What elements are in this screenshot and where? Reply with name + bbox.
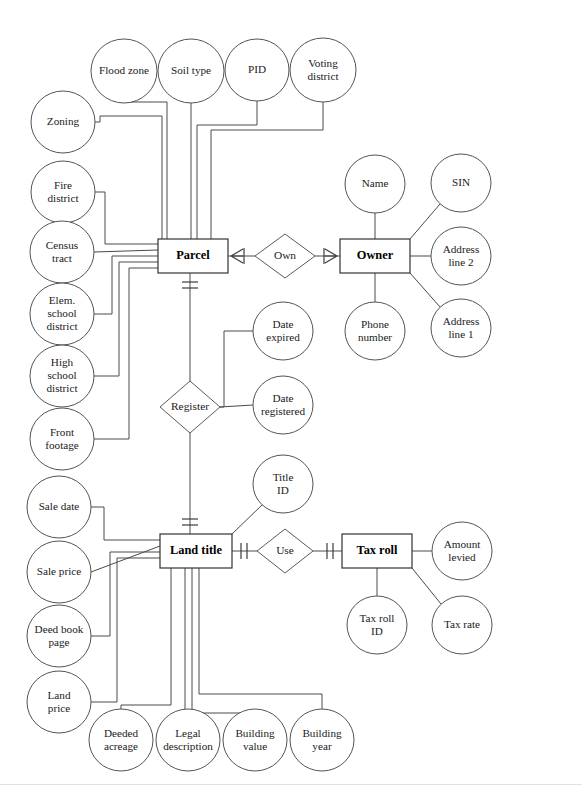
edge-sin: [410, 204, 440, 239]
edge-building_value: [192, 568, 255, 713]
page-bottom-rule: [0, 784, 582, 785]
edge-fire_district: [95, 192, 158, 244]
attribute-node-zoning[interactable]: Zoning: [31, 91, 95, 153]
attribute-label-sale_price: Sale price: [37, 565, 81, 577]
attribute-node-address_line_2[interactable]: Addressline 2: [431, 227, 491, 285]
edge-building_year: [199, 568, 322, 709]
attribute-node-voting_district[interactable]: Votingdistrict: [290, 38, 356, 102]
edge-title_id: [232, 505, 262, 534]
attribute-node-building_value[interactable]: Buildingvalue: [223, 709, 287, 771]
edge-deeded_acreage: [121, 568, 171, 709]
attribute-node-name[interactable]: Name: [345, 155, 405, 213]
relationship-label-use: Use: [276, 544, 294, 556]
attribute-node-building_year[interactable]: Buildingyear: [290, 709, 354, 771]
attribute-node-address_line_1[interactable]: Addressline 1: [431, 299, 491, 357]
edge-address_line_1: [410, 273, 440, 307]
attribute-node-date_registered[interactable]: Dateregistered: [253, 376, 313, 434]
attribute-node-amount_levied[interactable]: Amountlevied: [432, 522, 492, 580]
attribute-label-tax_rate: Tax rate: [444, 618, 480, 630]
relationship-label-register: Register: [171, 400, 209, 412]
attribute-node-front_footage[interactable]: Frontfootage: [30, 408, 94, 470]
attribute-label-soil_type: Soil type: [171, 64, 211, 76]
relationship-node-use[interactable]: Use: [257, 529, 313, 573]
er-diagram-canvas: Flood zoneSoil typePIDVotingdistrictZoni…: [0, 0, 582, 803]
attribute-label-voting_district: Votingdistrict: [307, 56, 339, 81]
entity-label-land_title: Land title: [170, 543, 222, 557]
attribute-node-legal_description[interactable]: Legaldescription: [156, 709, 220, 771]
attribute-node-deed_book_page[interactable]: Deed bookpage: [27, 605, 91, 667]
edge-flood_zone: [124, 102, 167, 239]
edge-census_tract: [94, 250, 158, 252]
attribute-label-elem_school: Elem.schooldistrict: [46, 294, 78, 332]
attribute-node-census_tract[interactable]: Censustract: [30, 221, 94, 283]
attribute-node-phone_number[interactable]: Phonenumber: [345, 302, 405, 360]
attribute-label-phone_number: Phonenumber: [358, 317, 392, 342]
attribute-node-deeded_acreage[interactable]: Deededacreage: [89, 709, 153, 771]
attribute-node-date_expired[interactable]: Dateexpired: [253, 302, 313, 360]
attribute-label-land_price: Landprice: [48, 688, 71, 713]
attribute-node-tax_roll_id[interactable]: Tax rollID: [347, 596, 407, 654]
entity-node-parcel[interactable]: Parcel: [158, 239, 228, 273]
relationship-label-own: Own: [274, 249, 296, 261]
edge-sale_price: [91, 546, 160, 572]
edge-tax_rate: [412, 568, 441, 604]
attribute-node-high_school[interactable]: Highschooldistrict: [30, 345, 94, 407]
attribute-node-pid[interactable]: PID: [225, 39, 289, 101]
attribute-node-title_id[interactable]: TitleID: [253, 455, 313, 513]
attribute-label-zoning: Zoning: [47, 115, 80, 127]
attribute-node-sale_date[interactable]: Sale date: [27, 476, 91, 538]
attribute-node-fire_district[interactable]: Firedistrict: [31, 161, 95, 223]
entity-node-tax_roll[interactable]: Tax roll: [342, 534, 412, 568]
attribute-label-flood_zone: Flood zone: [99, 64, 149, 76]
edge-deed_book_page: [91, 552, 160, 636]
attribute-node-elem_school[interactable]: Elem.schooldistrict: [30, 283, 94, 345]
er-diagram-svg: Flood zoneSoil typePIDVotingdistrictZoni…: [0, 0, 582, 803]
attribute-label-sin: SIN: [452, 176, 470, 188]
attribute-label-pid: PID: [248, 63, 266, 75]
attribute-label-sale_date: Sale date: [39, 500, 80, 512]
edge-land_price: [91, 558, 160, 702]
edge-date_registered: [220, 405, 253, 407]
relationship-node-register[interactable]: Register: [160, 381, 220, 433]
attribute-label-amount_levied: Amountlevied: [444, 537, 482, 562]
attribute-node-flood_zone[interactable]: Flood zone: [91, 39, 157, 103]
attribute-node-tax_rate[interactable]: Tax rate: [432, 596, 492, 654]
edge-sale_date: [91, 507, 160, 540]
attribute-label-front_footage: Frontfootage: [45, 425, 79, 450]
cardinality-parcel-own-crowsfoot: [231, 249, 243, 263]
attribute-node-soil_type[interactable]: Soil type: [158, 39, 224, 103]
edge-elem_school: [94, 256, 158, 314]
attribute-node-land_price[interactable]: Landprice: [27, 671, 91, 733]
edge-front_footage: [94, 268, 158, 439]
entity-node-owner[interactable]: Owner: [340, 239, 410, 273]
edge-pid: [197, 101, 257, 239]
entity-label-parcel: Parcel: [176, 248, 210, 262]
attribute-node-sin[interactable]: SIN: [431, 154, 491, 212]
cardinality-owner-own-crowsfoot: [325, 249, 337, 263]
entity-label-owner: Owner: [357, 248, 394, 262]
relationship-node-own[interactable]: Own: [255, 234, 315, 278]
attribute-label-deeded_acreage: Deededacreage: [104, 726, 139, 751]
edge-voting_district: [211, 102, 323, 239]
edge-date_expired: [220, 331, 253, 407]
edge-high_school: [94, 262, 158, 376]
entity-label-tax_roll: Tax roll: [357, 543, 399, 557]
attribute-label-name: Name: [362, 177, 389, 189]
nodes-layer: Flood zoneSoil typePIDVotingdistrictZoni…: [27, 38, 492, 771]
attribute-node-sale_price[interactable]: Sale price: [27, 541, 91, 603]
entity-node-land_title[interactable]: Land title: [160, 534, 232, 568]
